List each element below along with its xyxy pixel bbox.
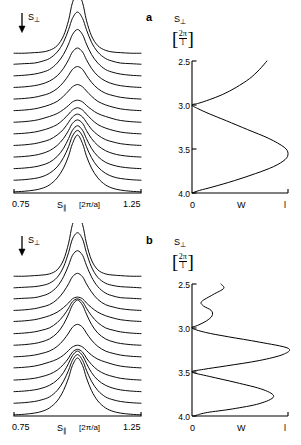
panel-b-xaxis-unit: [2π/a] bbox=[79, 424, 100, 432]
panel-a-ytick-1: 3.0 bbox=[168, 101, 190, 111]
panel-a-xtick-0: 0 bbox=[190, 201, 195, 210]
panel-b-wplot-group bbox=[192, 284, 290, 416]
panel-b-tag: b bbox=[146, 235, 153, 246]
panel-b-xaxis-max-label: 1.25 bbox=[123, 423, 141, 432]
panel-a-xtick-1: l bbox=[284, 201, 286, 210]
panel-b-stack-axis-label: S⊥ bbox=[28, 235, 40, 247]
panel-a-yaxis-unit: [ 2π l ] bbox=[172, 30, 194, 48]
panel-b-xtick-0: 0 bbox=[190, 424, 195, 433]
panel-a-stack-arrow-icon bbox=[19, 13, 25, 33]
panel-a-yaxis-unit-num: 2π bbox=[179, 30, 187, 38]
bracket-close-icon: ] bbox=[187, 254, 193, 269]
panel-b-curve-8 bbox=[14, 299, 141, 334]
panel-a-xaxis-symbol: S∥ bbox=[57, 201, 67, 211]
panel-b-waterfall-group bbox=[14, 223, 141, 416]
panel-a-xaxis-W-label: W bbox=[237, 201, 246, 210]
panel-b-curve-6 bbox=[14, 324, 141, 356]
panel-a-xaxis-min-label: 0.75 bbox=[12, 200, 30, 209]
panel-b-curve-10 bbox=[14, 273, 141, 310]
panel-a-graphics bbox=[0, 0, 301, 222]
panel-a-curve-13 bbox=[14, 0, 141, 53]
panel-b-waterfall-axis bbox=[14, 412, 141, 416]
panel-b-xaxis-min-label: 0.75 bbox=[12, 423, 30, 432]
panel-b-curve-3 bbox=[14, 351, 141, 392]
panel-a: S⊥ 0.75 1.25 S∥ [2π/a] a S⊥ [ 2π l ] 2.5… bbox=[0, 0, 301, 222]
panel-b-yaxis-unit-den: l bbox=[179, 261, 187, 270]
panel-b-yaxis-symbol: S⊥ bbox=[174, 238, 186, 248]
panel-b-graphics bbox=[0, 223, 301, 445]
panel-b-curve-7 bbox=[14, 300, 141, 345]
panel-a-xaxis-unit: [2π/a] bbox=[79, 201, 100, 209]
panel-a-waterfall-group bbox=[14, 0, 141, 193]
panel-b-wplot-curve bbox=[192, 284, 290, 416]
panel-a-curve-10 bbox=[14, 48, 141, 87]
panel-b-curve-5 bbox=[14, 345, 141, 368]
panel-a-stack-axis-label: S⊥ bbox=[28, 12, 40, 24]
panel-b-ytick-3: 4.0 bbox=[168, 412, 190, 422]
panel-b-curve-13 bbox=[14, 223, 141, 276]
panel-b-yaxis-unit-num: 2π bbox=[179, 253, 187, 261]
panel-b-curve-11 bbox=[14, 251, 141, 299]
panel-a-ytick-3: 4.0 bbox=[168, 189, 190, 199]
panel-b-ytick-1: 3.0 bbox=[168, 324, 190, 334]
panel-b-curve-4 bbox=[14, 349, 141, 380]
panel-a-wplot-xaxis bbox=[192, 189, 288, 193]
panel-b-xtick-1: l bbox=[284, 424, 286, 433]
panel-a-ytick-0: 2.5 bbox=[168, 57, 190, 67]
panel-b-ytick-2: 3.5 bbox=[168, 368, 190, 378]
panel-a-curve-7 bbox=[14, 100, 141, 122]
panel-a-tag: a bbox=[146, 12, 152, 23]
panel-a-waterfall-axis bbox=[14, 189, 141, 193]
panel-a-curve-9 bbox=[14, 67, 141, 99]
panel-b-stack-sub: ⊥ bbox=[34, 239, 40, 246]
panel-b-ytick-0: 2.5 bbox=[168, 280, 190, 290]
panel-a-xaxis-max-label: 1.25 bbox=[123, 200, 141, 209]
panel-b-stack-arrow-icon bbox=[19, 236, 25, 256]
panel-b: S⊥ 0.75 1.25 S∥ [2π/a] b S⊥ [ 2π l ] 2.5… bbox=[0, 223, 301, 445]
figure-container: S⊥ 0.75 1.25 S∥ [2π/a] a S⊥ [ 2π l ] 2.5… bbox=[0, 0, 301, 445]
panel-b-xaxis-W-label: W bbox=[237, 424, 246, 433]
panel-b-xaxis-symbol: S∥ bbox=[57, 424, 67, 434]
panel-a-stack-sub: ⊥ bbox=[34, 16, 40, 23]
panel-a-curve-5 bbox=[14, 114, 141, 145]
panel-b-yaxis-unit: [ 2π l ] bbox=[172, 253, 194, 271]
panel-a-wplot-group bbox=[192, 61, 288, 193]
panel-a-ytick-2: 3.5 bbox=[168, 145, 190, 155]
panel-a-yaxis-unit-den: l bbox=[179, 38, 187, 47]
panel-a-yaxis-symbol: S⊥ bbox=[174, 15, 186, 25]
bracket-close-icon: ] bbox=[187, 31, 193, 46]
panel-a-wplot-curve bbox=[192, 61, 288, 193]
